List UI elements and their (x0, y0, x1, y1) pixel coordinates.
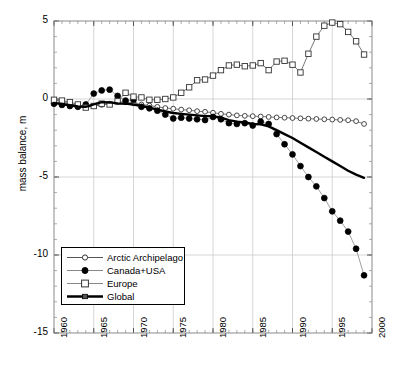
open-square-marker-icon (65, 277, 105, 290)
open-circle-marker-icon (65, 251, 105, 264)
x-tick-label: 1990 (297, 317, 308, 338)
legend-item-canada-usa: Canada+USA (62, 264, 184, 277)
legend-item-global: Global (62, 290, 184, 303)
legend-label: Canada+USA (105, 264, 165, 277)
legend-label: Arctic Archipelago (105, 251, 183, 264)
chart-legend: Arctic Archipelago Canada+USA Europe Glo… (61, 247, 185, 305)
legend-label: Global (105, 290, 134, 303)
data-series-layer (51, 20, 367, 278)
x-tick-label: 1985 (257, 317, 268, 338)
x-tick-label: 1995 (336, 317, 347, 338)
series-europe (51, 20, 366, 110)
x-tick-label: 1970 (138, 317, 149, 338)
filled-circle-marker-icon (65, 264, 105, 277)
legend-item-europe: Europe (62, 277, 184, 290)
x-tick-label: 1965 (98, 317, 109, 338)
thick-line-marker-icon (65, 290, 105, 303)
legend-label: Europe (105, 277, 138, 290)
y-tick-label: -15 (20, 326, 48, 337)
y-axis-title: mass balance, m (17, 94, 28, 214)
x-tick-label: 1980 (217, 317, 228, 338)
x-tick-label: 2000 (376, 317, 387, 338)
x-tick-label: 1960 (58, 317, 69, 338)
chart-canvas (0, 0, 394, 369)
legend-item-arctic-archipelago: Arctic Archipelago (62, 251, 184, 264)
figure: mass balance, m 50-5-10-15 1960196519701… (0, 0, 394, 369)
series-global (54, 102, 364, 178)
y-tick-label: 0 (20, 92, 48, 103)
y-tick-label: -10 (20, 248, 48, 259)
y-tick-label: -5 (20, 170, 48, 181)
x-tick-label: 1975 (177, 317, 188, 338)
y-tick-label: 5 (20, 14, 48, 25)
